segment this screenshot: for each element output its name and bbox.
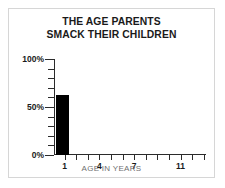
x-axis-tick bbox=[192, 155, 193, 160]
y-axis-tick bbox=[48, 78, 54, 79]
y-axis-tick-label: 100% bbox=[22, 55, 44, 64]
y-axis-tick bbox=[48, 126, 54, 127]
chart-card: THE AGE PARENTS SMACK THEIR CHILDREN 0%5… bbox=[8, 8, 215, 178]
x-axis-tick bbox=[134, 155, 135, 160]
y-axis-tick-label: 50% bbox=[27, 103, 44, 112]
x-axis-tick bbox=[76, 155, 77, 160]
x-axis-tick bbox=[99, 155, 100, 160]
x-axis-tick bbox=[146, 155, 147, 160]
y-axis-tick bbox=[45, 155, 54, 156]
y-axis-tick bbox=[45, 59, 54, 60]
y-axis-tick bbox=[48, 69, 54, 70]
x-axis-tick bbox=[65, 155, 66, 160]
x-axis-tick bbox=[88, 155, 89, 160]
chart-title-line-2: SMACK THEIR CHILDREN bbox=[15, 28, 208, 41]
y-axis-tick bbox=[48, 136, 54, 137]
x-axis-tick bbox=[169, 155, 170, 160]
y-axis-tick bbox=[45, 107, 54, 108]
x-axis-title: AGE IN YEARS bbox=[9, 164, 214, 173]
y-axis-tick bbox=[48, 145, 54, 146]
y-axis-tick bbox=[48, 88, 54, 89]
x-axis-tick bbox=[111, 155, 112, 160]
chart-title-line-1: THE AGE PARENTS bbox=[15, 15, 208, 28]
x-axis-tick bbox=[204, 155, 205, 160]
x-axis-tick bbox=[157, 155, 158, 160]
bar bbox=[56, 95, 69, 155]
x-axis-tick bbox=[181, 155, 182, 160]
y-axis-tick bbox=[48, 97, 54, 98]
y-axis-tick bbox=[48, 117, 54, 118]
x-axis-tick bbox=[123, 155, 124, 160]
chart-title: THE AGE PARENTS SMACK THEIR CHILDREN bbox=[15, 15, 208, 40]
plot-area: 0%50%100% 14711 bbox=[54, 59, 206, 155]
y-axis-tick-label: 0% bbox=[32, 151, 44, 160]
